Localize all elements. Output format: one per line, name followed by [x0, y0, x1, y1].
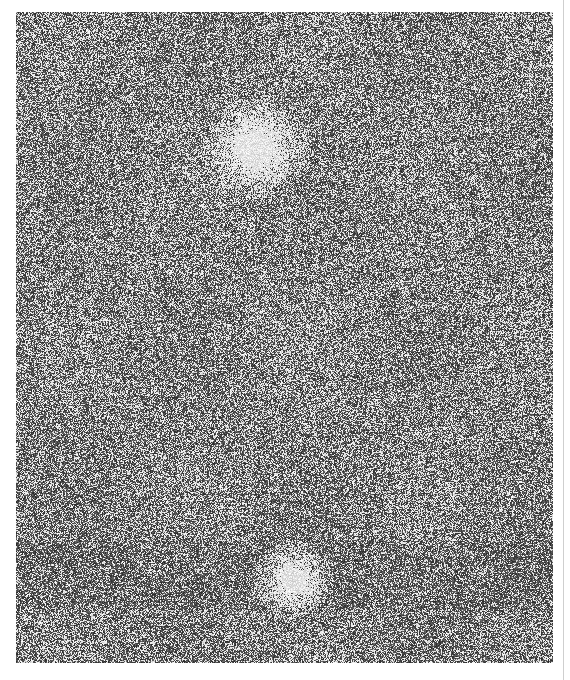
star-field-image: [16, 12, 553, 663]
page: [0, 0, 570, 680]
page-edge-rule: [563, 0, 564, 680]
astronomical-photo: [16, 12, 553, 663]
caption-text: [20, 670, 540, 680]
